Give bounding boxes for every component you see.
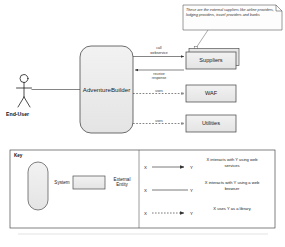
external-entity-label-waf: WAF xyxy=(186,90,236,96)
actor-end-user-figure xyxy=(17,75,32,108)
key-label-external-entity: External Entity xyxy=(108,177,136,188)
key-row-to-3: Y xyxy=(190,211,193,216)
actor-label-end-user: End-User xyxy=(6,112,29,118)
edge-label-uses-utilities: uses xyxy=(146,119,172,124)
edge-label-uses-waf: uses xyxy=(146,89,172,94)
key-row-description-3: X uses Y as a library xyxy=(199,206,265,212)
key-title: Key xyxy=(14,153,22,158)
system-label-adventurebuilder: AdventureBuilder xyxy=(80,86,133,93)
key-row-description-1: X interacts with Y using web services xyxy=(199,157,265,168)
edge-label-receive-response: receive response xyxy=(140,72,178,81)
key-row-from-1: X xyxy=(144,165,147,170)
external-entity-label-utilities: Utilities xyxy=(186,120,236,126)
key-row-to-2: Y xyxy=(190,188,193,193)
diagram-canvas: These are the external suppliers like ai… xyxy=(0,0,285,247)
key-row-from-2: X xyxy=(144,188,147,193)
key-row-from-3: X xyxy=(144,211,147,216)
key-swatch-external-entity xyxy=(73,176,105,189)
key-row-to-1: Y xyxy=(190,165,193,170)
key-swatch-system xyxy=(28,162,48,210)
external-entity-label-suppliers: Suppliers xyxy=(186,57,236,63)
key-row-description-2: X interacts with Y using a web browser xyxy=(199,180,265,191)
key-label-system: System xyxy=(52,180,72,185)
edge-label-call-webservice: call webservice xyxy=(140,46,178,55)
note-text: These are the external suppliers like ai… xyxy=(186,8,278,18)
